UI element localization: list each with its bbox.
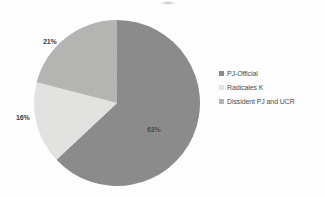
- legend-swatch-icon: [219, 71, 224, 76]
- pie-slice-label-pj-official: 63%: [147, 126, 160, 133]
- legend-item-label: Dissident PJ and UCR: [227, 98, 295, 105]
- pie-chart-figure: 63% 16% 21% PJ-Official Radicales K Diss…: [0, 0, 325, 197]
- legend-item-dissident-pj-and-ucr[interactable]: Dissident PJ and UCR: [219, 94, 325, 108]
- pie-slice-label-dissident-pj-and-ucr: 21%: [43, 38, 56, 45]
- legend-item-label: PJ-Official: [227, 70, 258, 77]
- legend-swatch-icon: [219, 99, 224, 104]
- pie-slices: [34, 20, 200, 186]
- legend-item-radicales-k[interactable]: Radicales K: [219, 80, 325, 94]
- pie-svg: [0, 0, 210, 197]
- pie-plot-area: 63% 16% 21%: [0, 0, 210, 197]
- pie-slice-label-radicales-k: 16%: [16, 114, 29, 121]
- chart-legend: PJ-Official Radicales K Dissident PJ and…: [219, 66, 325, 108]
- scan-artifact: [160, 1, 176, 5]
- legend-item-label: Radicales K: [227, 84, 263, 91]
- legend-swatch-icon: [219, 85, 224, 90]
- legend-item-pj-official[interactable]: PJ-Official: [219, 66, 325, 80]
